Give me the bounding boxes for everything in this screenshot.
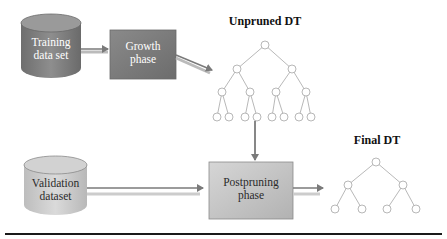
- arrow-validation-to-postpruning: [87, 188, 203, 194]
- diagram-canvas: Training data set Growth phase Validatio…: [0, 0, 447, 239]
- growth-phase-label: Growth phase: [110, 40, 176, 66]
- validation-label-line1: Validation: [24, 177, 87, 190]
- arrow-growth-to-unpruned: [176, 55, 212, 73]
- arrow-postpruning-to-final: [293, 188, 323, 194]
- final-tree: [331, 158, 420, 213]
- bottom-rule: [5, 233, 442, 235]
- postpruning-label-line2: phase: [209, 189, 293, 202]
- training-dataset-label: Training data set: [21, 36, 81, 62]
- postpruning-label-line1: Postpruning: [209, 176, 293, 189]
- postpruning-phase-label: Postpruning phase: [209, 176, 293, 202]
- unpruned-tree: [213, 41, 315, 121]
- unpruned-dt-title: Unpruned DT: [220, 15, 310, 29]
- training-label-line2: data set: [21, 49, 81, 62]
- final-dt-title: Final DT: [340, 134, 414, 148]
- training-label-line1: Training: [21, 36, 81, 49]
- growth-label-line2: phase: [110, 53, 176, 66]
- arrow-training-to-growth: [81, 49, 108, 52]
- growth-label-line1: Growth: [110, 40, 176, 53]
- validation-dataset-label: Validation dataset: [24, 177, 87, 203]
- validation-label-line2: dataset: [24, 190, 87, 203]
